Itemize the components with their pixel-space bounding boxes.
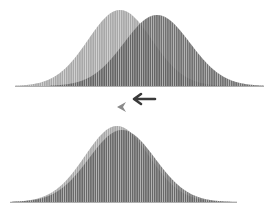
arrow-left-small-icon: [117, 102, 126, 112]
arrow-left-icon: [134, 94, 155, 104]
bottom-panel: [10, 126, 237, 203]
arrows: [117, 94, 155, 112]
top-panel: [15, 10, 264, 87]
distribution-shift-diagram: [0, 0, 274, 213]
dark-hatching: [12, 130, 237, 202]
